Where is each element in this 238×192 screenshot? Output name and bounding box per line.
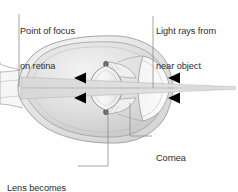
label-cornea: Cornea	[156, 130, 186, 188]
eye-accommodation-figure: Point of focus on retina Light rays from…	[0, 0, 238, 192]
label-cornea-line1: Cornea	[156, 153, 186, 165]
label-lens-becomes-rounder: Lens becomes rounder	[7, 160, 66, 192]
label-light-rays-line2: near object	[156, 61, 216, 73]
label-lens-rounder-line1: Lens becomes	[7, 183, 66, 192]
label-point-of-focus-line1: Point of focus	[20, 26, 75, 38]
label-light-rays-line1: Light rays from	[156, 26, 216, 38]
label-light-rays: Light rays from near object	[156, 3, 216, 95]
label-point-of-focus-line2: on retina	[20, 61, 75, 73]
label-point-of-focus: Point of focus on retina	[20, 3, 75, 95]
